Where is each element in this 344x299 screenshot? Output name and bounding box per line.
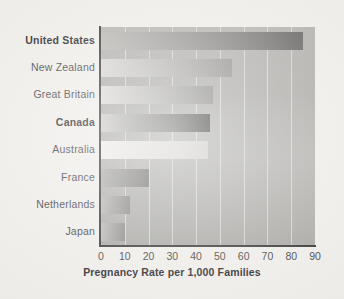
x-tick-60: 60 [231,250,257,262]
bar-australia [101,141,208,159]
bar-great-britain [101,86,213,104]
category-label-japan: Japan [0,225,95,237]
category-label-france: France [0,171,95,183]
category-label-netherlands: Netherlands [0,198,95,210]
gridline-80 [291,27,292,246]
x-tick-30: 30 [159,250,185,262]
gridline-70 [267,27,268,246]
x-tick-0: 0 [88,250,114,262]
chart-figure: United StatesNew ZealandGreat BritainCan… [0,0,344,299]
x-tick-40: 40 [183,250,209,262]
gridline-60 [244,27,245,246]
category-label-great-britain: Great Britain [0,88,95,100]
plot-area [101,27,315,246]
bar-new-zealand [101,59,232,77]
x-axis-title: Pregnancy Rate per 1,000 Families [0,266,344,278]
x-tick-70: 70 [254,250,280,262]
x-tick-20: 20 [136,250,162,262]
y-axis-line [99,26,101,247]
x-tick-50: 50 [207,250,233,262]
bar-netherlands [101,196,130,214]
x-tick-90: 90 [302,250,328,262]
category-label-canada: Canada [0,116,95,128]
bar-japan [101,223,125,241]
bar-canada [101,114,210,132]
category-label-united-states: United States [0,34,95,46]
x-tick-10: 10 [112,250,138,262]
category-label-new-zealand: New Zealand [0,61,95,73]
bar-france [101,169,149,187]
category-label-australia: Australia [0,143,95,155]
bar-united-states [101,32,303,50]
x-tick-80: 80 [278,250,304,262]
x-axis-line [99,245,316,247]
